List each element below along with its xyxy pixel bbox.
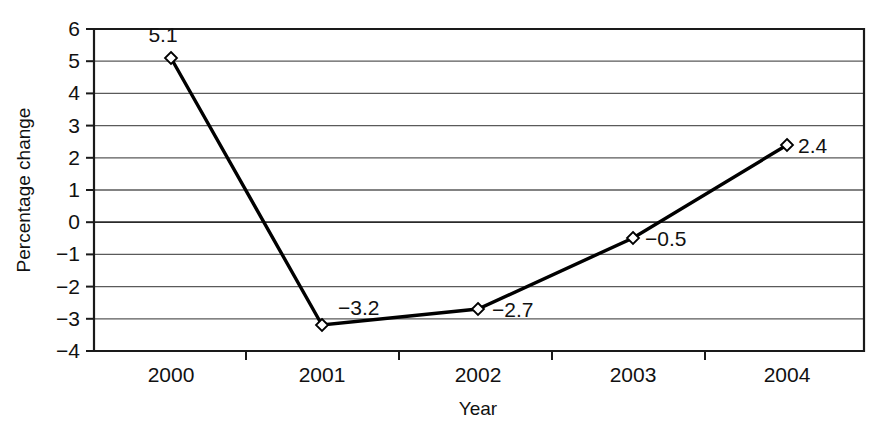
data-point-label: −2.7 bbox=[492, 298, 533, 321]
y-tick-label: −4 bbox=[56, 339, 80, 362]
y-tick-label: 3 bbox=[68, 114, 80, 137]
chart-background bbox=[0, 0, 885, 438]
data-point-label: 5.1 bbox=[148, 23, 177, 46]
y-axis-title: Percentage change bbox=[13, 108, 34, 273]
x-tick-label: 2003 bbox=[610, 363, 657, 386]
chart-figure: 6 5 4 3 2 1 0 −1 −2 −3 −4 2000 2001 2002… bbox=[0, 0, 885, 438]
x-tick-label: 2000 bbox=[148, 363, 195, 386]
y-tick-label: −1 bbox=[56, 242, 80, 265]
x-axis-title: Year bbox=[459, 398, 498, 419]
data-point-label: −3.2 bbox=[338, 296, 379, 319]
y-tick-label: −3 bbox=[56, 307, 80, 330]
y-tick-label: 1 bbox=[68, 178, 80, 201]
y-tick-label: 2 bbox=[68, 146, 80, 169]
y-tick-label: 4 bbox=[68, 81, 80, 104]
y-tick-label: −2 bbox=[56, 275, 80, 298]
line-chart-canvas: 6 5 4 3 2 1 0 −1 −2 −3 −4 2000 2001 2002… bbox=[0, 0, 885, 438]
y-tick-label: 5 bbox=[68, 49, 80, 72]
y-tick-label: 6 bbox=[68, 17, 80, 40]
data-point-label: 2.4 bbox=[798, 134, 828, 157]
y-tick-label: 0 bbox=[68, 210, 80, 233]
data-point-label: −0.5 bbox=[645, 227, 686, 250]
x-tick-label: 2001 bbox=[299, 363, 346, 386]
x-tick-label: 2002 bbox=[455, 363, 502, 386]
x-tick-label: 2004 bbox=[764, 363, 811, 386]
